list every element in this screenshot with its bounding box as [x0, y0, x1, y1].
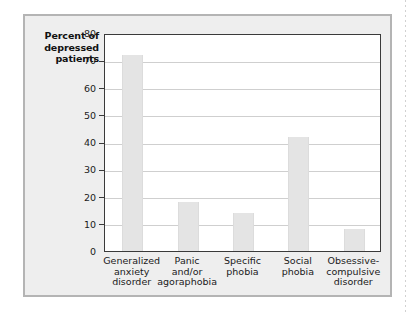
gridline: [105, 144, 380, 145]
bar: [233, 213, 254, 251]
y-axis-tick-label: 10: [74, 220, 96, 230]
page-edge-artifact: [405, 0, 406, 313]
bar: [178, 202, 199, 251]
y-axis-tick-label: 70: [74, 56, 96, 66]
x-axis-tick-label-line: Obsessive-: [303, 256, 403, 267]
y-axis-tick-label: 20: [74, 193, 96, 203]
y-axis-tick-label: 50: [74, 111, 96, 121]
bar: [122, 55, 143, 251]
gridline: [105, 116, 380, 117]
bar: [344, 229, 365, 251]
bar: [288, 137, 309, 251]
gridline: [105, 198, 380, 199]
y-axis-tick-label: 60: [74, 84, 96, 94]
y-axis-title-line-2: depressed: [31, 42, 99, 54]
y-axis-tick-label: 30: [74, 165, 96, 175]
x-axis-tick-label: Obsessive-compulsivedisorder: [303, 256, 403, 288]
y-axis-tick-label: 40: [74, 138, 96, 148]
chart-panel: Percent of depressed patients 0102030405…: [23, 14, 392, 297]
chart-figure: Percent of depressed patients 0102030405…: [0, 0, 414, 313]
gridline: [105, 171, 380, 172]
x-axis-tick-label-line: agoraphobia: [137, 277, 237, 288]
gridline: [105, 89, 380, 90]
plot-area: [104, 34, 381, 252]
x-axis-tick-label-line: disorder: [303, 277, 403, 288]
gridline: [105, 62, 380, 63]
y-axis-tick-label: 80: [74, 29, 96, 39]
